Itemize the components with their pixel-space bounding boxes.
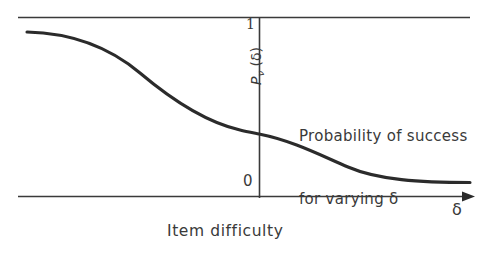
y-axis-label: Pν (δ) [248,26,266,106]
y-axis-label-subscript: ν [255,71,266,76]
annotation-line-1: Probability of success [299,126,468,147]
annotation-line-2: for varying δ [299,189,468,210]
figure-container: 1 0 Pν (δ) Probability of success for va… [0,0,495,255]
y-axis-tick-label-zero: 0 [243,172,253,190]
y-axis-label-argument: (δ) [248,47,264,71]
x-axis-caption: Item difficulty [167,222,283,240]
plot-annotation: Probability of success for varying δ [299,84,468,252]
x-axis-symbol-delta: δ [452,200,462,219]
y-axis-label-main: P [248,76,264,85]
